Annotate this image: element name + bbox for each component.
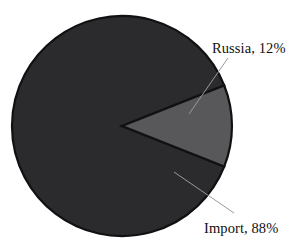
pie-label-russia: Russia, 12%: [212, 40, 286, 56]
pie-label-import: Import, 88%: [204, 220, 278, 236]
pie-chart: Russia, 12% Import, 88%: [0, 0, 306, 249]
pie-chart-canvas: Russia, 12% Import, 88%: [0, 0, 306, 249]
